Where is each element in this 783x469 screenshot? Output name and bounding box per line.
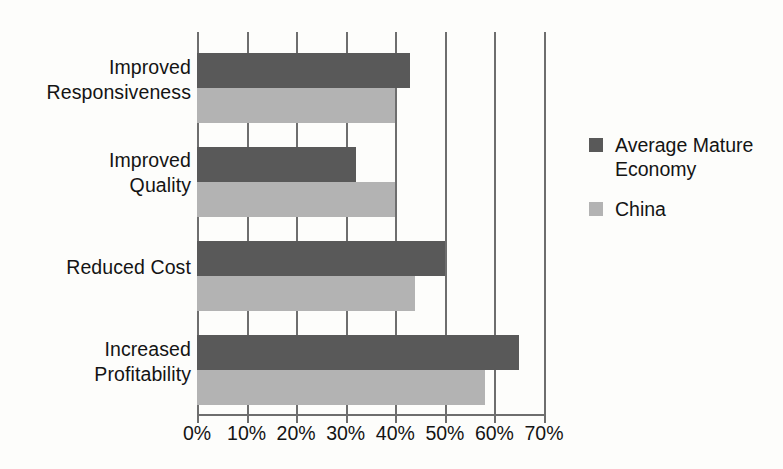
category-label-line: Quality (109, 173, 191, 198)
category-label-line: Improved (47, 55, 191, 80)
legend-swatch-icon (589, 202, 603, 216)
bar-series-average-mature-economy (197, 53, 410, 88)
category-label-line: Profitability (94, 362, 191, 387)
category-label-line: Reduced Cost (66, 255, 191, 280)
bar-series-china (197, 370, 485, 405)
legend-label-line: China (615, 197, 753, 221)
bar-chart: 0% 10% 20% 30% 40% 50% 60% 70% Improved … (0, 0, 783, 469)
bar-series-china (197, 182, 395, 217)
category-label-line: Improved (109, 148, 191, 173)
category-label-reduced-cost: Reduced Cost (66, 255, 191, 280)
bar-series-china (197, 276, 415, 311)
bar-series-average-mature-economy (197, 335, 519, 370)
bar-series-china (197, 88, 395, 123)
category-label-line: Increased (94, 337, 191, 362)
legend-item-average-mature-economy: Average Mature Economy (589, 133, 753, 181)
bar-series-average-mature-economy (197, 147, 356, 182)
bar-group (197, 241, 544, 311)
category-label-improved-quality: Improved Quality (109, 148, 191, 198)
category-label-improved-responsiveness: Improved Responsiveness (47, 55, 191, 105)
category-label-increased-profitability: Increased Profitability (94, 337, 191, 387)
bar-group (197, 53, 544, 123)
plot-area (197, 32, 544, 416)
legend-swatch-icon (589, 138, 603, 152)
gridline (544, 32, 546, 416)
x-axis-tick-label: 70% (515, 421, 573, 445)
category-label-line: Responsiveness (47, 80, 191, 105)
bar-series-average-mature-economy (197, 241, 445, 276)
x-axis-tick-label: 0% (173, 421, 221, 445)
bar-group (197, 335, 544, 405)
legend: Average Mature Economy China (589, 133, 753, 237)
legend-label-line: Average Mature (615, 133, 753, 157)
legend-label-line: Economy (615, 157, 753, 181)
legend-item-china: China (589, 197, 753, 221)
bar-group (197, 147, 544, 217)
